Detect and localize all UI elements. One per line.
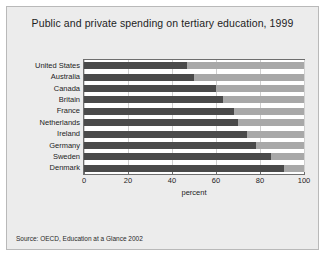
bars-layer (84, 60, 304, 174)
x-tick-mark-40 (172, 172, 173, 175)
bar-row (84, 119, 304, 126)
x-tick-label-20: 20 (124, 176, 132, 185)
bar-segment-public (84, 142, 256, 149)
bar-segment-private (238, 119, 304, 126)
bar-segment-private (187, 62, 304, 69)
x-tick-label-40: 40 (168, 176, 176, 185)
bar-row (84, 62, 304, 69)
bar-segment-public (84, 62, 187, 69)
bar-row (84, 96, 304, 103)
y-tick-label-canada: Canada (10, 84, 80, 93)
x-tick-mark-100 (304, 172, 305, 175)
x-tick-mark-0 (84, 172, 85, 175)
bar-row (84, 131, 304, 138)
gridline-100 (304, 60, 305, 174)
chart-title: Public and private spending on tertiary … (7, 17, 318, 29)
bar-segment-public (84, 119, 238, 126)
bar-segment-private (194, 74, 304, 81)
bar-segment-public (84, 165, 284, 172)
x-tick-label-60: 60 (212, 176, 220, 185)
x-tick-mark-20 (128, 172, 129, 175)
bar-segment-private (216, 85, 304, 92)
y-tick-label-france: France (10, 106, 80, 115)
bar-segment-private (247, 131, 304, 138)
chart-figure: Public and private spending on tertiary … (6, 6, 319, 250)
x-tick-mark-60 (216, 172, 217, 175)
bar-segment-public (84, 153, 271, 160)
bar-segment-private (284, 165, 304, 172)
y-tick-label-britain: Britain (10, 95, 80, 104)
x-axis-labels: 020406080100 (84, 176, 304, 188)
y-tick-label-germany: Germany (10, 141, 80, 150)
x-tick-mark-80 (260, 172, 261, 175)
bar-row (84, 74, 304, 81)
bar-segment-public (84, 85, 216, 92)
y-tick-label-denmark: Denmark (10, 163, 80, 172)
bar-row (84, 108, 304, 115)
x-axis-title: percent (84, 188, 304, 197)
y-tick-label-netherlands: Netherlands (10, 118, 80, 127)
y-tick-label-united-states: United States (10, 61, 80, 70)
bar-segment-private (271, 153, 304, 160)
bar-segment-private (256, 142, 304, 149)
bar-row (84, 85, 304, 92)
bar-segment-private (223, 96, 304, 103)
bar-segment-private (234, 108, 304, 115)
bar-segment-public (84, 108, 234, 115)
x-tick-label-80: 80 (256, 176, 264, 185)
y-tick-label-ireland: Ireland (10, 129, 80, 138)
y-tick-label-sweden: Sweden (10, 152, 80, 161)
plot-area: United StatesAustraliaCanadaBritainFranc… (83, 59, 305, 175)
bar-segment-public (84, 131, 247, 138)
bar-row (84, 153, 304, 160)
source-note: Source: OECD, Education at a Glance 2002 (16, 235, 143, 242)
x-tick-label-100: 100 (298, 176, 311, 185)
y-tick-label-australia: Australia (10, 72, 80, 81)
bar-row (84, 165, 304, 172)
bar-row (84, 142, 304, 149)
bar-segment-public (84, 96, 223, 103)
x-tick-label-0: 0 (82, 176, 86, 185)
y-axis-labels: United StatesAustraliaCanadaBritainFranc… (10, 60, 80, 174)
bar-segment-public (84, 74, 194, 81)
